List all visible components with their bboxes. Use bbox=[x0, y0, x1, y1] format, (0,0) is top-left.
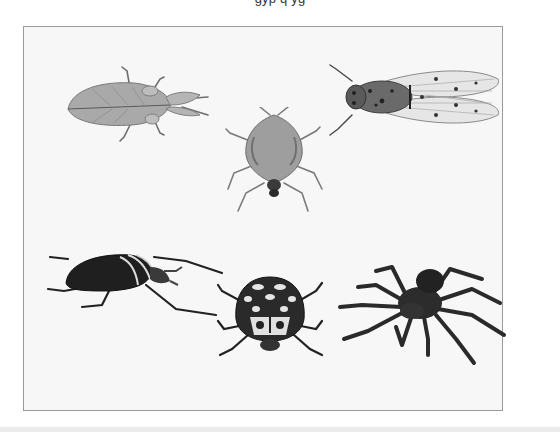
spotted-beetle-image bbox=[208, 273, 334, 365]
figure-caption-cropped: gyp q yg bbox=[0, 0, 560, 6]
cicada-image bbox=[326, 61, 504, 141]
bottom-edge-band bbox=[0, 427, 560, 432]
tarantula-image bbox=[332, 255, 512, 370]
stink-bug-image bbox=[220, 107, 330, 217]
leaf-insect-image bbox=[62, 59, 212, 149]
goliath-beetle-image bbox=[46, 249, 226, 324]
specimen-panel bbox=[23, 26, 503, 411]
